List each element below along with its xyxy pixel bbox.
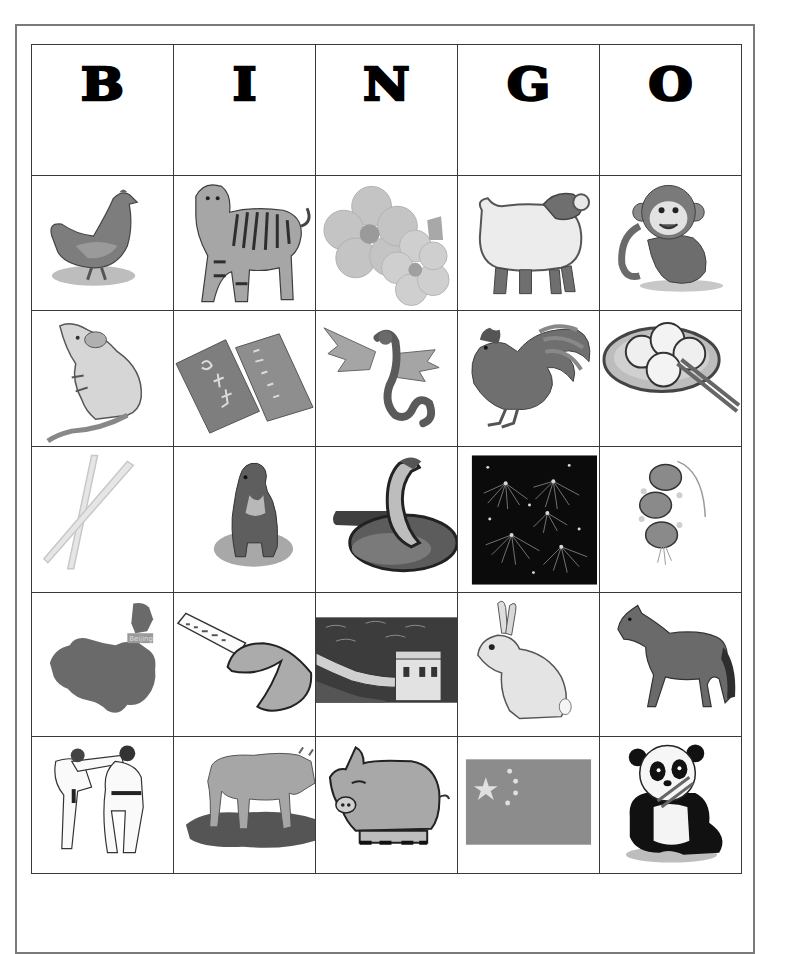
- header-letter: O: [600, 45, 742, 107]
- bingo-cell[interactable]: dragon: [316, 311, 458, 447]
- monkey-icon: [600, 176, 741, 310]
- panda-icon: [600, 737, 741, 873]
- lantern-icon: [600, 447, 741, 592]
- bingo-cell[interactable]: snake (cobra): [316, 447, 458, 593]
- header-letter: I: [174, 45, 316, 107]
- header-cell-o: O: [600, 45, 742, 176]
- dragon-icon: [316, 311, 457, 446]
- header-cell-g: G: [458, 45, 600, 176]
- sheep-icon: [458, 176, 599, 310]
- rabbit-icon: [458, 593, 599, 736]
- bingo-cell[interactable]: chicken: [32, 176, 174, 311]
- bingo-cell[interactable]: dog: [174, 447, 316, 593]
- bingo-cell[interactable]: fortune cookie: [174, 593, 316, 737]
- bingo-cell[interactable]: Chinese calligraphy red envelopes: [174, 311, 316, 447]
- header-letter: B: [32, 45, 174, 107]
- fireworks-icon: [458, 447, 599, 592]
- bingo-cell[interactable]: chopsticks: [32, 447, 174, 593]
- bingo-cell[interactable]: martial arts: [32, 737, 174, 874]
- bingo-cell[interactable]: pig: [316, 737, 458, 874]
- bingo-cell[interactable]: Great Wall of China: [316, 593, 458, 737]
- bingo-cell[interactable]: monkey: [600, 176, 742, 311]
- bingo-row: chicken tiger: [32, 176, 742, 311]
- header-letter: N: [316, 45, 458, 107]
- bingo-cell[interactable]: rabbit: [458, 593, 600, 737]
- header-cell-b: B: [32, 45, 174, 176]
- bingo-row: rat Chinese calligraphy red envelopes: [32, 311, 742, 447]
- bingo-row: chopsticks dog: [32, 447, 742, 593]
- bingo-cell[interactable]: ram / sheep: [458, 176, 600, 311]
- bingo-cell[interactable]: fireworks: [458, 447, 600, 593]
- great-wall-icon: [316, 593, 457, 736]
- bingo-cell[interactable]: paper lanterns: [600, 447, 742, 593]
- fortune-cookie-icon: [174, 593, 315, 736]
- flower-icon: [316, 176, 457, 310]
- bingo-cell[interactable]: plum blossom flowers: [316, 176, 458, 311]
- horse-icon: [600, 593, 741, 736]
- bingo-row: martial arts ox: [32, 737, 742, 874]
- tiger-icon: [174, 176, 315, 310]
- bingo-cell[interactable]: rooster: [458, 311, 600, 447]
- map-label: Beijing: [129, 635, 153, 643]
- china-flag-icon: [458, 737, 599, 873]
- dumplings-icon: [600, 311, 741, 446]
- red-envelope-icon: [174, 311, 315, 446]
- rooster-icon: [458, 311, 599, 446]
- martial-arts-icon: [32, 737, 173, 873]
- bingo-cell[interactable]: ox: [174, 737, 316, 874]
- snake-icon: [316, 447, 457, 592]
- chopsticks-icon: [32, 447, 173, 592]
- bingo-cell[interactable]: horse: [600, 593, 742, 737]
- bingo-cell[interactable]: tiger: [174, 176, 316, 311]
- bingo-cell[interactable]: panda: [600, 737, 742, 874]
- bingo-card: B I N G O chicken: [31, 44, 742, 874]
- bingo-cell[interactable]: flag of China: [458, 737, 600, 874]
- bingo-cell[interactable]: dumplings with chopsticks: [600, 311, 742, 447]
- bingo-row: Beijing map of China fortune cookie: [32, 593, 742, 737]
- pig-icon: [316, 737, 457, 873]
- dog-icon: [174, 447, 315, 592]
- header-letter: G: [458, 45, 600, 107]
- bingo-cell[interactable]: Beijing map of China: [32, 593, 174, 737]
- header-cell-i: I: [174, 45, 316, 176]
- rat-icon: [32, 311, 173, 446]
- ox-icon: [174, 737, 315, 873]
- chicken-icon: [32, 176, 173, 310]
- bingo-cell[interactable]: rat: [32, 311, 174, 447]
- china-map-icon: Beijing: [32, 593, 173, 736]
- bingo-header-row: B I N G O: [32, 45, 742, 176]
- header-cell-n: N: [316, 45, 458, 176]
